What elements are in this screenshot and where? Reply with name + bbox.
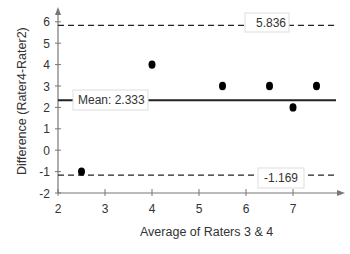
x-axis-title: Average of Raters 3 & 4 bbox=[140, 225, 273, 239]
y-tick-label: -2 bbox=[39, 187, 50, 201]
lower-limit-label: -1.169 bbox=[264, 171, 298, 185]
data-point bbox=[78, 167, 85, 175]
y-tick-label: 4 bbox=[43, 58, 50, 72]
upper-limit-label: 5.836 bbox=[256, 16, 286, 30]
data-point bbox=[290, 103, 297, 111]
y-axis-arrow-icon bbox=[55, 7, 61, 15]
x-tick-label: 5 bbox=[196, 202, 203, 216]
x-tick-label: 4 bbox=[149, 202, 156, 216]
y-tick-label: 2 bbox=[43, 101, 50, 115]
x-axis-arrow-icon bbox=[337, 190, 345, 196]
data-point bbox=[219, 82, 226, 90]
y-tick-label: 3 bbox=[43, 80, 50, 94]
data-point bbox=[266, 82, 273, 90]
y-tick-label: -1 bbox=[39, 165, 50, 179]
y-tick-label: 1 bbox=[43, 122, 50, 136]
x-tick-label: 2 bbox=[55, 202, 62, 216]
mean-label: Mean: 2.333 bbox=[78, 93, 145, 107]
x-tick-label: 6 bbox=[243, 202, 250, 216]
data-point bbox=[313, 82, 320, 90]
y-tick-label: 0 bbox=[43, 144, 50, 158]
x-tick-label: 7 bbox=[290, 202, 297, 216]
data-points bbox=[78, 60, 320, 175]
y-axis-title: Difference (Rater4-Rater2) bbox=[15, 27, 29, 175]
bland-altman-chart: -2-10123456234567 5.836 Mean: 2.333 -1.1… bbox=[0, 0, 350, 254]
data-point bbox=[149, 60, 156, 68]
y-tick-label: 5 bbox=[43, 37, 50, 51]
x-tick-label: 3 bbox=[102, 202, 109, 216]
y-tick-label: 6 bbox=[43, 15, 50, 29]
